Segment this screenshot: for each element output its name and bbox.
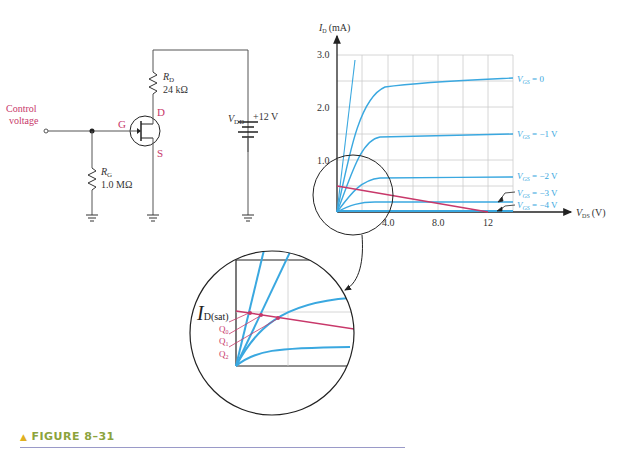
x-axis-label: VDS(V) — [576, 207, 606, 219]
x-tick-12: 12 — [483, 217, 493, 228]
curve-label-vgs-minus-3: VGS = −3 V — [517, 188, 558, 199]
caption-triangle-icon: ▲ — [20, 432, 27, 442]
ground-icon — [86, 215, 98, 221]
figure-canvas: Control voltage G D S RD 24 kΩ RG 1.0 MΩ… — [0, 0, 627, 453]
curve-vgs-minus-1 — [337, 134, 513, 212]
rd-label: RD — [162, 71, 174, 84]
q1-label: Q1 — [219, 336, 229, 347]
curve-vgs-minus-2 — [337, 177, 513, 212]
y-tick-1: 1.0 — [317, 155, 330, 166]
curve-label-vgs-0: VGS = 0 — [517, 74, 544, 85]
caption-text: FIGURE 8–31 — [31, 430, 114, 443]
zoom-arrow — [345, 235, 362, 290]
curve-label-vgs-minus-2: VGS = −2 V — [517, 171, 558, 182]
figure-caption: ▲FIGURE 8–31 — [20, 430, 115, 443]
rg-value: 1.0 MΩ — [101, 179, 132, 190]
curve-vgs-0 — [337, 78, 513, 212]
q2-label: Q2 — [219, 349, 229, 360]
zoom-inset — [190, 250, 360, 415]
y-tick-2: 2.0 — [317, 102, 330, 113]
x-tick-4: 4.0 — [382, 217, 395, 228]
curve-label-vgs-minus-4: VGS = −4 V — [517, 200, 558, 211]
x-tick-8: 8.0 — [432, 217, 445, 228]
magnifier-small-circle — [313, 155, 393, 235]
ground-icon — [147, 215, 159, 221]
characteristic-curves — [337, 60, 513, 212]
vdd-label: VDD — [228, 113, 244, 126]
magnifier-large-circle — [190, 251, 354, 415]
ground-icon — [242, 215, 254, 221]
control-input-terminal — [44, 129, 48, 133]
caption-rule — [20, 447, 405, 448]
dc-load-line — [337, 186, 488, 212]
rd-value: 24 kΩ — [163, 84, 188, 95]
rg-label: RG — [100, 166, 112, 179]
rg-resistor — [88, 168, 96, 190]
control-label-line1: Control — [6, 103, 37, 114]
vdd-value: +12 V — [253, 111, 279, 122]
rd-resistor — [149, 72, 157, 94]
circuit-schematic — [44, 50, 258, 221]
q0-label: Q0 — [219, 324, 229, 335]
drain-label: D — [157, 106, 165, 118]
control-label-line2: voltage — [9, 115, 39, 126]
y-tick-3: 3.0 — [317, 49, 330, 60]
source-label: S — [157, 147, 163, 159]
y-axis-label: ID(mA) — [318, 22, 350, 34]
curve-label-vgs-minus-1: VGS = −1 V — [517, 129, 558, 140]
gate-label: G — [118, 118, 126, 130]
id-sat-label: ID(sat) — [196, 302, 229, 324]
